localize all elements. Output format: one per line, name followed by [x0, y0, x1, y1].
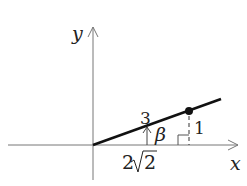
trig-diagram: y x 3 β 1 2 2	[0, 0, 247, 186]
adjacent-label-radicand: 2	[144, 153, 156, 172]
x-axis-label: x	[230, 154, 241, 173]
opposite-label: 1	[194, 120, 205, 137]
right-angle-marker	[178, 135, 189, 145]
angle-label: β	[155, 125, 166, 144]
hypotenuse-label: 3	[140, 110, 151, 127]
adjacent-label-coefficient: 2	[122, 153, 134, 172]
y-axis-label: y	[72, 24, 83, 43]
point-marker	[185, 107, 193, 115]
